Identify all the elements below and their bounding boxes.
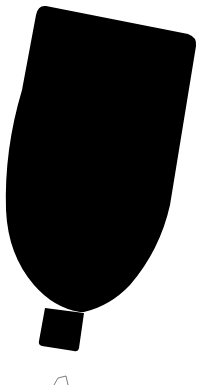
bottle-body-silhouette <box>6 6 196 312</box>
small-outline-mark <box>54 376 68 385</box>
bottle-neck-silhouette <box>39 308 84 351</box>
silhouette-canvas <box>0 0 200 386</box>
